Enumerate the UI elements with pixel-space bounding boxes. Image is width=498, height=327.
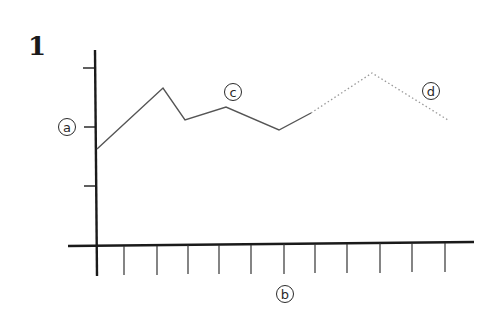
y-axis bbox=[95, 50, 97, 276]
callout-a: a bbox=[58, 118, 76, 136]
callout-b: b bbox=[276, 285, 294, 303]
callout-c: c bbox=[224, 83, 242, 101]
x-axis bbox=[68, 242, 474, 246]
x-axis-ticks bbox=[124, 243, 445, 275]
chart-canvas bbox=[0, 0, 498, 327]
solid-data-line bbox=[97, 88, 311, 149]
line-graph-figure: 1 a c d b bbox=[0, 0, 498, 327]
y-axis-ticks bbox=[83, 68, 96, 186]
callout-d: d bbox=[422, 82, 440, 100]
